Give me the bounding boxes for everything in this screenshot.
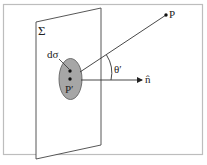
surface-label: Σ: [38, 23, 46, 38]
normal-label: n̂: [145, 73, 151, 85]
field-point-label: P: [169, 8, 175, 20]
area-element-label: dσ: [47, 48, 59, 60]
outer-frame: [4, 5, 203, 155]
field-point-dot: [164, 13, 167, 16]
source-point-label: P′: [65, 83, 74, 95]
area-element-dot: [68, 69, 71, 72]
angle-label: θ′: [114, 63, 122, 75]
source-point-dot: [68, 77, 71, 80]
angle-arc: [107, 55, 112, 80]
diagram-canvas: Σ dσ P′ P θ′ n̂: [0, 0, 207, 165]
